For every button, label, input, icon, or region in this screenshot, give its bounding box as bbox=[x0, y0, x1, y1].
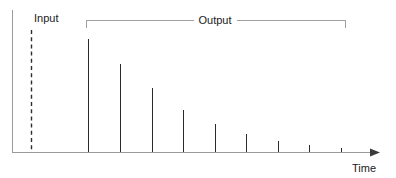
x-axis-arrow-icon bbox=[370, 149, 380, 157]
time-axis-label: Time bbox=[352, 162, 376, 174]
output-label: Output bbox=[198, 14, 231, 26]
output-bracket-right bbox=[237, 21, 346, 29]
output-bracket-left bbox=[87, 21, 195, 29]
impulse-response-figure: Input Output Time bbox=[0, 0, 396, 178]
input-label: Input bbox=[34, 12, 58, 24]
figure-canvas: Input Output Time bbox=[0, 0, 396, 178]
